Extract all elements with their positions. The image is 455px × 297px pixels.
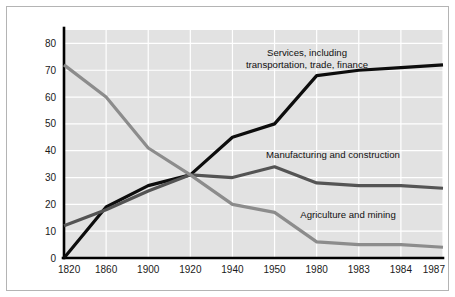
manufacturing-annotation-line: Manufacturing and construction <box>266 149 400 160</box>
y-tick-label: 40 <box>45 145 57 156</box>
y-tick-label: 30 <box>45 172 57 183</box>
figure-root: 01020304050607080 1820186019001920194019… <box>0 0 455 297</box>
x-tick-label: 1920 <box>179 264 202 275</box>
services-annotation-line: transportation, trade, finance <box>246 59 368 70</box>
y-tick-label: 50 <box>45 118 57 129</box>
x-tick-label: 1984 <box>390 264 413 275</box>
y-axis-tick-labels: 01020304050607080 <box>45 38 57 264</box>
y-tick-label: 0 <box>50 253 56 264</box>
x-tick-label: 1980 <box>306 264 329 275</box>
x-tick-label: 1983 <box>348 264 371 275</box>
x-tick-label: 1987 <box>423 264 446 275</box>
x-tick-label: 1900 <box>137 264 160 275</box>
agriculture-annotation-line: Agriculture and mining <box>300 209 395 220</box>
agriculture-annotation: Agriculture and mining <box>300 209 395 220</box>
y-tick-label: 80 <box>45 38 57 49</box>
y-tick-label: 70 <box>45 65 57 76</box>
manufacturing-annotation: Manufacturing and construction <box>266 149 400 160</box>
x-tick-label: 1820 <box>58 264 81 275</box>
y-tick-label: 10 <box>45 226 57 237</box>
services-annotation-line: Services, including <box>267 47 347 58</box>
y-tick-label: 20 <box>45 199 57 210</box>
x-tick-label: 1860 <box>95 264 118 275</box>
x-axis-tick-labels: 1820186019001920194019501980198319841987 <box>58 264 445 275</box>
line-chart: 01020304050607080 1820186019001920194019… <box>0 0 455 297</box>
x-tick-label: 1950 <box>263 264 286 275</box>
y-tick-label: 60 <box>45 92 57 103</box>
x-tick-label: 1940 <box>221 264 244 275</box>
